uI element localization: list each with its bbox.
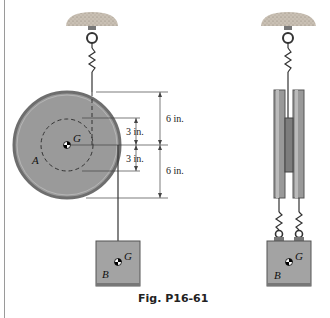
dim-inner-top: 3 in. (126, 126, 144, 137)
label-g-block-side: G (295, 250, 303, 262)
label-g-block: G (124, 250, 132, 262)
dim-inner-bottom: 3 in. (126, 153, 144, 164)
pulley-diagram: G A G B G B 6 in. 3 in. 3 in. 6 in. (0, 0, 330, 318)
center-of-mass-icon (286, 259, 293, 266)
spring-icon (285, 48, 291, 72)
hub (285, 118, 293, 172)
ceiling-eyelet (283, 33, 293, 43)
ceiling-support (261, 12, 316, 26)
spring-icon (276, 212, 282, 230)
ceiling-support (66, 12, 118, 26)
spring-icon (89, 48, 95, 72)
dim-outer-bottom: 6 in. (166, 165, 184, 176)
dim-outer-top: 6 in. (166, 113, 184, 124)
label-disk-a: A (31, 154, 39, 166)
label-g-disk: G (73, 132, 81, 144)
label-block-b-side: B (274, 269, 281, 281)
center-of-mass-icon (115, 259, 122, 266)
center-of-mass-icon (64, 142, 71, 149)
disk-plate-left (274, 90, 285, 198)
ceiling-eyelet (87, 33, 97, 43)
spring-icon (296, 212, 302, 230)
front-view (14, 12, 168, 282)
disk-plate-right (293, 90, 304, 198)
figure-caption: Fig. P16-61 (138, 292, 208, 305)
label-block-b: B (102, 268, 109, 280)
side-view (261, 12, 316, 286)
